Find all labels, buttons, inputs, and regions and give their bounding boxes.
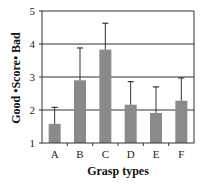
x-axis-title: Grasp types xyxy=(87,164,149,178)
y-tick-label: 1 xyxy=(30,137,36,149)
x-axis-ticks: ABCDEF xyxy=(51,143,185,160)
y-axis-ticks: 12345 xyxy=(30,5,43,149)
bar-b xyxy=(74,80,86,143)
x-tick-label: A xyxy=(51,148,59,160)
bar-c xyxy=(99,50,111,143)
x-tick-label: F xyxy=(178,148,184,160)
y-tick-label: 5 xyxy=(30,5,36,17)
bars xyxy=(49,50,188,143)
x-tick-label: D xyxy=(127,148,135,160)
y-tick-label: 2 xyxy=(30,104,36,116)
bar-d xyxy=(125,105,137,143)
gridlines xyxy=(42,44,194,110)
x-tick-label: C xyxy=(102,148,109,160)
error-bars xyxy=(52,23,185,124)
bar-f xyxy=(175,101,187,143)
y-axis-title: Good •Score• Bad xyxy=(9,32,23,124)
bar-chart: 12345 ABCDEF Grasp types Good •Score• Ba… xyxy=(0,0,204,187)
x-tick-label: E xyxy=(153,148,160,160)
bar-e xyxy=(150,113,162,143)
y-tick-label: 4 xyxy=(30,38,36,50)
y-tick-label: 3 xyxy=(30,71,36,83)
bar-a xyxy=(49,124,61,143)
x-tick-label: B xyxy=(76,148,83,160)
